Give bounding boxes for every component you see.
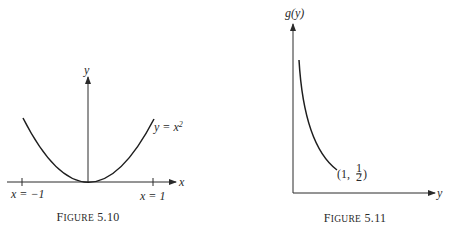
curve-label: y = x2 bbox=[153, 120, 183, 134]
g-curve bbox=[299, 60, 337, 170]
y-axis-label: g(y) bbox=[285, 6, 304, 20]
svg-text:2: 2 bbox=[356, 170, 362, 184]
point-label: (1, 1 2 ) bbox=[337, 161, 367, 184]
svg-text:): ) bbox=[363, 167, 367, 181]
tick-label-x-minus-1: x = −1 bbox=[10, 187, 45, 201]
figure-5-10: y x y = x2 x = −1 x = 1 FIGURE 5.10 bbox=[7, 63, 185, 224]
x-axis-label: y bbox=[436, 186, 443, 200]
y-axis-label: y bbox=[83, 63, 90, 77]
figure-5-11: g(y) y (1, 1 2 ) FIGURE 5.11 bbox=[285, 6, 443, 225]
svg-text:(1,: (1, bbox=[337, 167, 350, 181]
figure-caption: FIGURE 5.11 bbox=[324, 211, 387, 225]
figure-caption: FIGURE 5.10 bbox=[56, 210, 119, 224]
tick-label-x-plus-1: x = 1 bbox=[139, 189, 165, 203]
x-axis-label: x bbox=[178, 175, 185, 189]
figures-canvas: y x y = x2 x = −1 x = 1 FIGURE 5.10 g(y)… bbox=[0, 0, 459, 234]
